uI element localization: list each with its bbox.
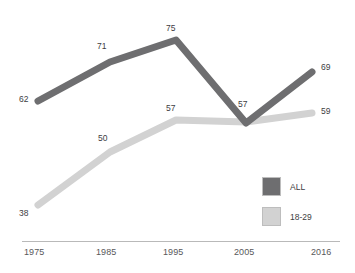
- data-label-18-29-1985: 50: [98, 133, 107, 143]
- data-label-all-2016: 69: [321, 62, 330, 72]
- line-chart: 62 71 75 57 69 38 50 57 59 ALL 18-29 197…: [0, 0, 355, 273]
- data-label-18-29-2016: 59: [321, 106, 330, 116]
- data-label-18-29-1975: 38: [19, 208, 28, 218]
- x-axis-tick-labels: 1975 1985 1995 2005 2016: [0, 246, 355, 264]
- legend-label-18-29: 18-29: [290, 212, 312, 222]
- legend-label-all: ALL: [290, 182, 305, 192]
- x-tick-1995: 1995: [163, 246, 183, 258]
- x-tick-1985: 1985: [96, 246, 116, 258]
- legend-item-18-29[interactable]: 18-29: [262, 206, 350, 227]
- x-tick-2016: 2016: [311, 246, 331, 258]
- data-label-all-1985: 71: [97, 41, 106, 51]
- legend-swatch-18-29: [262, 207, 281, 226]
- data-label-all-2005: 57: [238, 99, 247, 109]
- x-tick-1975: 1975: [24, 246, 44, 258]
- x-tick-2005: 2005: [234, 246, 254, 258]
- legend-item-all[interactable]: ALL: [262, 176, 350, 197]
- chart-legend: ALL 18-29: [262, 176, 350, 236]
- data-label-all-1995: 75: [166, 23, 175, 33]
- data-label-18-29-1995: 57: [166, 103, 175, 113]
- data-label-all-1975: 62: [19, 94, 28, 104]
- legend-swatch-all: [262, 177, 281, 196]
